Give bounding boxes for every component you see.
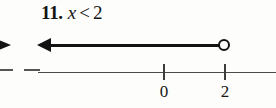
tick-label-0: 0 bbox=[154, 82, 174, 102]
right-arrow-icon bbox=[0, 39, 11, 51]
solution-ray bbox=[46, 44, 224, 47]
tick-mark-2 bbox=[224, 64, 226, 80]
variable-label: x bbox=[63, 2, 76, 23]
adjacent-axis-fragment bbox=[0, 69, 13, 71]
bound-value: 2 bbox=[92, 2, 103, 23]
number-line-axis bbox=[38, 72, 276, 74]
tick-mark-0 bbox=[163, 64, 165, 80]
problem-number: 11. bbox=[41, 2, 63, 23]
problem-heading: 11.x<2 bbox=[41, 1, 102, 25]
inequality-graph-figure: 11.x<2 0 2 bbox=[0, 0, 276, 108]
open-circle-icon bbox=[218, 39, 230, 51]
relation-symbol: < bbox=[76, 2, 92, 23]
tick-label-2: 2 bbox=[215, 82, 235, 102]
